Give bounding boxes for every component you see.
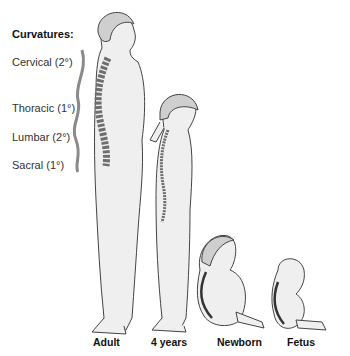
adult-figure — [92, 12, 145, 334]
spine-development-illustration — [0, 0, 350, 356]
legend-title: Curvatures: — [12, 28, 74, 40]
child-figure — [150, 94, 198, 332]
legend-thoracic: Thoracic (1°) — [12, 102, 75, 114]
caption-adult: Adult — [93, 336, 120, 348]
newborn-figure — [197, 235, 264, 328]
caption-4-years: 4 years — [151, 336, 187, 348]
fetus-figure — [272, 259, 326, 330]
legend-cervical: Cervical (2°) — [12, 56, 73, 68]
caption-newborn: Newborn — [217, 336, 262, 348]
caption-fetus: Fetus — [287, 336, 315, 348]
curvature-bar — [74, 50, 83, 172]
legend-sacral: Sacral (1°) — [12, 159, 64, 171]
legend-lumbar: Lumbar (2°) — [12, 131, 70, 143]
